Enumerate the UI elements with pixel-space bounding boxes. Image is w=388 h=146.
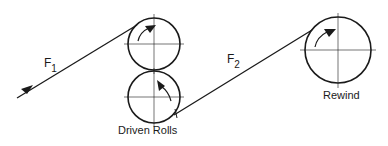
rotation-arrow-clockwise-icon bbox=[138, 28, 149, 41]
roll-diagram: F1 F2 Driven Rolls Rewind bbox=[0, 0, 388, 146]
web-segment-f1 bbox=[17, 25, 137, 98]
web-segment-f2 bbox=[174, 30, 312, 118]
arrowhead-icon bbox=[157, 80, 165, 91]
f1-label: F1 bbox=[44, 56, 57, 74]
driven-roll-bottom bbox=[124, 68, 184, 127]
rewind-label: Rewind bbox=[323, 89, 360, 101]
rotation-arrow-counterclockwise-icon bbox=[161, 86, 171, 101]
driven-roll-top bbox=[124, 14, 184, 74]
f2-label: F2 bbox=[227, 52, 240, 70]
driven-rolls-label: Driven Rolls bbox=[118, 124, 178, 136]
rotation-arrow-clockwise-icon bbox=[315, 32, 327, 47]
rewind-roll bbox=[300, 13, 376, 88]
